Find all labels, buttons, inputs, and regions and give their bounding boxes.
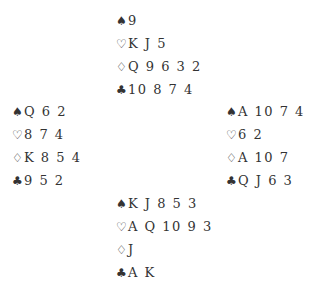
north-hand: ♠9 ♡K J 5 ♢Q 9 6 3 2 ♣10 8 7 4 bbox=[116, 9, 202, 101]
east-hand: ♠A 10 7 4 ♡6 2 ♢A 10 7 ♣Q J 6 3 bbox=[226, 100, 305, 192]
heart-icon: ♡ bbox=[116, 216, 128, 239]
diamond-icon: ♢ bbox=[116, 56, 128, 79]
south-clubs: ♣A K bbox=[116, 261, 213, 284]
west-hearts: ♡8 7 4 bbox=[12, 123, 81, 146]
diamond-icon: ♢ bbox=[116, 239, 128, 262]
heart-icon: ♡ bbox=[226, 124, 238, 147]
north-spades: ♠9 bbox=[116, 9, 202, 32]
west-spades: ♠Q 6 2 bbox=[12, 100, 81, 123]
west-diamonds: ♢K 8 5 4 bbox=[12, 146, 81, 169]
south-spades: ♠K J 8 5 3 bbox=[116, 192, 213, 215]
diamond-icon: ♢ bbox=[12, 147, 24, 170]
south-hand: ♠K J 8 5 3 ♡A Q 10 9 3 ♢J ♣A K bbox=[116, 192, 213, 284]
north-hearts: ♡K J 5 bbox=[116, 32, 202, 55]
spade-icon: ♠ bbox=[116, 10, 128, 33]
south-hearts: ♡A Q 10 9 3 bbox=[116, 215, 213, 238]
east-clubs: ♣Q J 6 3 bbox=[226, 169, 305, 192]
east-hearts: ♡6 2 bbox=[226, 123, 305, 146]
east-diamonds: ♢A 10 7 bbox=[226, 146, 305, 169]
heart-icon: ♡ bbox=[12, 124, 24, 147]
spade-icon: ♠ bbox=[116, 193, 128, 216]
club-icon: ♣ bbox=[116, 79, 128, 102]
club-icon: ♣ bbox=[116, 262, 128, 285]
south-diamonds: ♢J bbox=[116, 238, 213, 261]
west-hand: ♠Q 6 2 ♡8 7 4 ♢K 8 5 4 ♣9 5 2 bbox=[12, 100, 81, 192]
diamond-icon: ♢ bbox=[226, 147, 238, 170]
north-clubs: ♣10 8 7 4 bbox=[116, 78, 202, 101]
spade-icon: ♠ bbox=[226, 101, 238, 124]
club-icon: ♣ bbox=[226, 170, 238, 193]
east-spades: ♠A 10 7 4 bbox=[226, 100, 305, 123]
heart-icon: ♡ bbox=[116, 33, 128, 56]
west-clubs: ♣9 5 2 bbox=[12, 169, 81, 192]
north-diamonds: ♢Q 9 6 3 2 bbox=[116, 55, 202, 78]
spade-icon: ♠ bbox=[12, 101, 24, 124]
club-icon: ♣ bbox=[12, 170, 24, 193]
